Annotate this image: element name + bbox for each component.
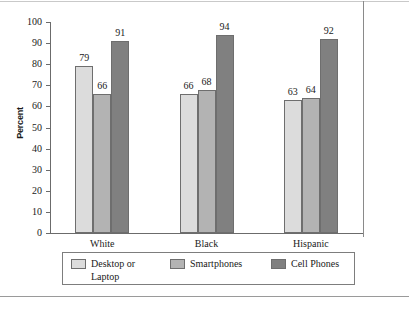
bar: 66 xyxy=(93,94,111,233)
bar-value-label: 66 xyxy=(97,79,107,92)
y-tick-label: 40 xyxy=(32,142,42,155)
frame-top-rule xyxy=(0,1,409,2)
y-tick-label: 100 xyxy=(27,15,42,28)
bar-value-label: 64 xyxy=(306,83,316,96)
y-axis-line xyxy=(50,22,51,234)
y-tick-label: 30 xyxy=(32,163,42,176)
legend-label: Desktop or Laptop xyxy=(91,257,135,283)
y-tick: 70 xyxy=(46,85,50,86)
bar: 66 xyxy=(180,94,198,233)
y-tick: 40 xyxy=(46,149,50,150)
y-tick-label: 60 xyxy=(32,99,42,112)
y-tick-label: 0 xyxy=(37,226,42,239)
frame-right-rule xyxy=(363,1,364,237)
y-tick-label: 50 xyxy=(32,121,42,134)
chart-figure: Percent 0102030405060708090100 796691666… xyxy=(0,0,409,309)
bar-value-label: 94 xyxy=(220,20,230,33)
y-tick: 60 xyxy=(46,106,50,107)
y-tick: 90 xyxy=(46,43,50,44)
y-tick: 10 xyxy=(46,212,50,213)
bar: 68 xyxy=(198,90,216,233)
x-axis-line xyxy=(50,233,363,234)
bar: 64 xyxy=(302,98,320,233)
bar-value-label: 68 xyxy=(202,75,212,88)
plot-area: 0102030405060708090100 79669166689463649… xyxy=(50,22,363,233)
legend-item[interactable]: Cell Phones xyxy=(271,257,339,270)
y-tick: 80 xyxy=(46,64,50,65)
bar-value-label: 91 xyxy=(115,26,125,39)
legend-item[interactable]: Desktop or Laptop xyxy=(71,257,135,283)
bar: 79 xyxy=(75,66,93,233)
bar-value-label: 92 xyxy=(324,24,334,37)
bar: 94 xyxy=(216,35,234,233)
legend-item[interactable]: Smartphones xyxy=(170,257,242,270)
y-tick: 0 xyxy=(46,233,50,234)
legend-swatch-icon xyxy=(170,259,185,269)
y-tick-label: 90 xyxy=(32,36,42,49)
bar: 92 xyxy=(320,39,338,233)
y-tick: 30 xyxy=(46,170,50,171)
y-tick-label: 70 xyxy=(32,78,42,91)
y-tick: 20 xyxy=(46,191,50,192)
legend-label: Cell Phones xyxy=(291,257,339,270)
frame-bottom-rule xyxy=(0,296,409,297)
legend-swatch-icon xyxy=(271,259,286,269)
y-tick: 100 xyxy=(46,22,50,23)
category-label: White xyxy=(90,238,114,249)
y-tick: 50 xyxy=(46,128,50,129)
bar-value-label: 63 xyxy=(288,85,298,98)
bar: 91 xyxy=(111,41,129,233)
chart-legend: Desktop or LaptopSmartphonesCell Phones xyxy=(62,252,355,285)
legend-label: Smartphones xyxy=(190,257,242,270)
y-tick-label: 80 xyxy=(32,57,42,70)
category-label: Hispanic xyxy=(293,238,329,249)
category-label: Black xyxy=(195,238,218,249)
bar: 63 xyxy=(284,100,302,233)
y-axis-label: Percent xyxy=(15,93,25,153)
bar-value-label: 79 xyxy=(79,51,89,64)
y-tick-label: 20 xyxy=(32,184,42,197)
bar-value-label: 66 xyxy=(184,79,194,92)
y-tick-label: 10 xyxy=(32,205,42,218)
legend-swatch-icon xyxy=(71,259,86,269)
